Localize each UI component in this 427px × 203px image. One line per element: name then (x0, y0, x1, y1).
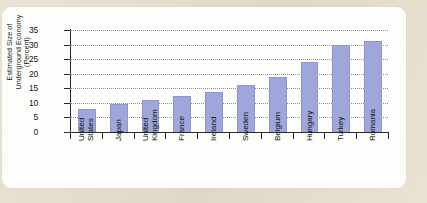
x-category-label: UnitedKingdom (141, 109, 159, 141)
x-category-label: Belgium (273, 112, 282, 141)
y-tick-label: 20 (0, 69, 38, 79)
x-tick-mark (229, 133, 230, 139)
chart-panel: Estimated Size of Underground Economy (P… (2, 7, 406, 188)
x-category-label: Japan (114, 119, 123, 141)
x-tick-mark (356, 133, 357, 139)
x-category-label: UnitedStates (77, 118, 95, 141)
x-category-label: Hungary (305, 111, 314, 141)
x-category-label-line: Romania (368, 109, 377, 141)
x-category-label: Turkey (336, 117, 345, 141)
x-category-label: Ireland (209, 117, 218, 141)
x-tick-mark (134, 133, 135, 139)
grid-line (70, 30, 388, 31)
x-category-label: France (177, 116, 186, 141)
x-tick-mark (70, 133, 71, 139)
y-tick-label: 0 (0, 127, 38, 137)
y-tick-label: 5 (0, 112, 38, 122)
x-category-label: Romania (368, 109, 377, 141)
x-category-label: Sweden (241, 112, 250, 141)
x-category-label-line: Belgium (273, 112, 282, 141)
x-tick-mark (324, 133, 325, 139)
x-tick-mark (293, 133, 294, 139)
x-category-label-line: Hungary (305, 111, 314, 141)
figure-page: Estimated Size of Underground Economy (P… (0, 0, 427, 203)
x-category-label-line: States (86, 118, 95, 141)
x-category-label-line: Sweden (241, 112, 250, 141)
x-category-label-line: Kingdom (150, 109, 159, 141)
y-tick-label: 15 (0, 83, 38, 93)
y-tick-label: 10 (0, 98, 38, 108)
x-category-label-line: Ireland (209, 117, 218, 141)
x-category-label-line: France (177, 116, 186, 141)
x-tick-mark (197, 133, 198, 139)
x-category-label-line: United (141, 118, 150, 141)
x-category-label-line: Japan (114, 119, 123, 141)
x-tick-mark (165, 133, 166, 139)
x-category-label-line: Turkey (336, 117, 345, 141)
y-tick-label: 30 (0, 40, 38, 50)
x-tick-mark (388, 133, 389, 139)
x-tick-mark (261, 133, 262, 139)
y-tick-label: 35 (0, 25, 38, 35)
bar-chart: Estimated Size of Underground Economy (P… (2, 7, 406, 188)
x-category-label-line: United (77, 118, 86, 141)
y-tick-label: 25 (0, 54, 38, 64)
x-tick-mark (102, 133, 103, 139)
